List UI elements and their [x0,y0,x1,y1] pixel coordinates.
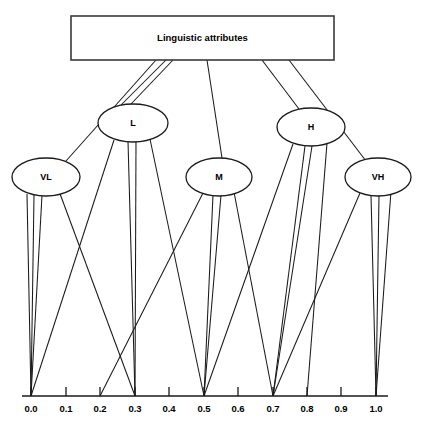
node-label-m: M [215,172,223,182]
node-label-l: L [130,118,136,128]
root-edge-h-4 [262,60,299,109]
node-label-vl: VL [40,172,52,182]
leaf-edge-vl-to-0-3 [59,191,135,396]
node-label-h: H [308,122,315,132]
node-group: VLLMHVH [12,104,411,196]
root-node-label: Linguistic attributes [157,32,248,43]
leaf-edge-m-to-0-2 [100,193,203,396]
axis-tick-label-0-7: 0.7 [266,403,279,414]
leaf-edge-m-to-0-5 [204,195,213,396]
root-edge-m-3 [207,60,222,158]
tick-label-group: 0.00.10.20.30.40.50.60.70.80.91.0 [24,403,382,414]
node-label-vh: VH [372,172,385,182]
leaf-edge-h-to-0-8 [307,143,327,396]
axis-tick-label-0-6: 0.6 [231,403,244,414]
root-edge-l-1 [121,60,166,105]
axis-tick-label-0-5: 0.5 [197,403,211,414]
leaf-edge-l-to-0-3 [128,141,135,396]
root-edge-l-2 [131,60,173,104]
axis-tick-label-0-2: 0.2 [93,403,106,414]
leaf-edge-vh-to-1-0 [371,195,376,396]
leaf-edge-m-to-0-5 [204,195,221,396]
root-node-group: Linguistic attributes [71,16,334,60]
axis-tick-label-0-4: 0.4 [162,403,176,414]
axis-tick-label-0-0: 0.0 [24,403,37,414]
leaf-edge-l-to-0-3 [135,141,136,396]
linguistic-attributes-diagram: VLLMHVH Linguistic attributes 0.00.10.20… [0,0,427,433]
axis-tick-label-0-1: 0.1 [59,403,73,414]
axis-tick-label-0-9: 0.9 [334,403,347,414]
axis-tick-label-0-3: 0.3 [128,403,141,414]
diagram-canvas: VLLMHVH Linguistic attributes 0.00.10.20… [0,0,427,433]
leaf-edge-vl-to-0-0 [27,194,31,396]
axis-tick-label-1-0: 1.0 [369,403,382,414]
axis-tick-label-0-8: 0.8 [300,403,313,414]
